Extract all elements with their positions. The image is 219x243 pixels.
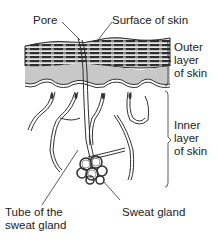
label-pore: Pore [33, 14, 57, 27]
label-outer-layer: Outer layer of skin [174, 41, 207, 80]
outer-layer-epidermis [25, 38, 170, 88]
label-surface-of-skin: Surface of skin [112, 14, 188, 27]
inner-layer-brace [165, 91, 171, 187]
label-inner-layer: Inner layer of skin [174, 119, 207, 158]
label-sweat-gland: Sweat gland [122, 206, 185, 219]
label-tube-of-sweat-gland: Tube of the sweat gland [5, 206, 66, 232]
nerve-endings [51, 93, 132, 99]
